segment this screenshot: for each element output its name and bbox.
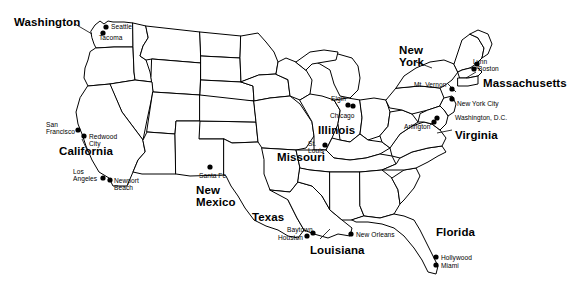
state-label-illinois[interactable]: Illinois xyxy=(318,125,355,137)
state-label-texas[interactable]: Texas xyxy=(252,212,284,224)
city-label-line: Los xyxy=(73,168,97,175)
state-label-louisiana[interactable]: Louisiana xyxy=(310,245,365,257)
state-label-virginia[interactable]: Virginia xyxy=(455,130,498,142)
state-shape-oregon[interactable] xyxy=(84,47,135,86)
city-dot-boston[interactable] xyxy=(471,66,476,71)
city-label-line: Elgin xyxy=(331,95,346,102)
state-shape-alabama[interactable] xyxy=(330,172,364,220)
city-label-line: Arlington xyxy=(404,123,430,130)
city-label-mt-vernon[interactable]: Mt. Vernon xyxy=(414,81,446,88)
city-label-tacoma[interactable]: Tacoma xyxy=(99,34,122,41)
city-label-line: Mt. Vernon xyxy=(414,81,446,88)
city-label-line: Baytown xyxy=(287,226,313,233)
state-label-line: Massachusetts xyxy=(483,78,567,90)
city-label-washington-d-c[interactable]: Washington, D.C. xyxy=(455,114,507,121)
city-label-san-francisco[interactable]: SanFrancisco xyxy=(46,121,75,136)
city-label-line: Louis xyxy=(308,147,324,154)
city-label-arlington[interactable]: Arlington xyxy=(404,123,430,130)
city-dot-hollywood[interactable] xyxy=(433,254,438,259)
city-label-line: St. xyxy=(308,140,324,147)
city-dot-newport-beach[interactable] xyxy=(107,177,112,182)
city-dot-arlington[interactable] xyxy=(431,119,436,124)
city-label-line: Redwood xyxy=(89,133,117,140)
state-label-florida[interactable]: Florida xyxy=(436,227,475,239)
state-label-line: New xyxy=(196,184,236,196)
city-label-santa-fe[interactable]: Santa Fe xyxy=(199,172,226,179)
state-label-line: York xyxy=(399,56,424,68)
city-label-line: Boston xyxy=(478,65,499,72)
city-label-boston[interactable]: Boston xyxy=(478,65,499,72)
city-label-line: Washington, D.C. xyxy=(455,114,507,121)
state-label-line: Virginia xyxy=(455,130,498,142)
state-shape-north-dakota[interactable] xyxy=(200,32,241,58)
city-label-line: Francisco xyxy=(46,128,75,135)
city-label-miami[interactable]: Miami xyxy=(441,262,459,269)
city-label-line: Hollywood xyxy=(441,254,472,261)
city-label-new-orleans[interactable]: New Orleans xyxy=(356,231,395,238)
state-label-line: Illinois xyxy=(318,125,355,137)
city-label-line: Santa Fe xyxy=(199,172,226,179)
city-dot-miami[interactable] xyxy=(433,262,438,267)
city-label-new-york-city[interactable]: New York City xyxy=(457,100,499,107)
state-label-new-mexico[interactable]: NewMexico xyxy=(196,184,236,208)
city-dot-new-york-city[interactable] xyxy=(449,96,454,101)
state-shape-south-dakota[interactable] xyxy=(201,56,241,82)
city-label-line: Angeles xyxy=(73,175,97,182)
city-label-los-angeles[interactable]: LosAngeles xyxy=(73,168,97,183)
city-label-newport-beach[interactable]: NewportBeach xyxy=(114,177,139,192)
city-label-elgin[interactable]: Elgin xyxy=(331,95,346,102)
city-label-line: San xyxy=(46,121,75,128)
state-shape-wyoming[interactable] xyxy=(151,59,201,95)
city-dot-san-francisco[interactable] xyxy=(75,127,80,132)
city-label-line: New Orleans xyxy=(356,231,395,238)
city-dot-seattle[interactable] xyxy=(103,24,108,29)
city-dot-los-angeles[interactable] xyxy=(100,175,105,180)
city-label-chicago[interactable]: Chicago xyxy=(330,112,355,119)
state-label-massachusetts[interactable]: Massachusetts xyxy=(483,78,567,90)
city-label-hollywood[interactable]: Hollywood xyxy=(441,254,472,261)
state-label-new-york[interactable]: NewYork xyxy=(399,44,424,68)
state-label-line: Washington xyxy=(14,17,80,29)
city-label-redwood-city[interactable]: RedwoodCity xyxy=(89,133,117,148)
city-label-line: Miami xyxy=(441,262,459,269)
city-label-baytown[interactable]: Baytown xyxy=(287,226,313,233)
city-label-line: City xyxy=(89,140,117,147)
city-dot-santa-fe[interactable] xyxy=(207,164,212,169)
city-label-line: Houston xyxy=(278,234,303,241)
city-label-line: New York City xyxy=(457,100,499,107)
city-dot-new-orleans[interactable] xyxy=(348,231,353,236)
city-dot-houston[interactable] xyxy=(304,233,309,238)
state-label-washington[interactable]: Washington xyxy=(14,17,80,29)
city-label-seattle[interactable]: Seattle xyxy=(111,23,132,30)
state-shape-connecticut[interactable] xyxy=(458,76,478,86)
city-dot-chicago[interactable] xyxy=(350,103,355,108)
city-dot-mt-vernon[interactable] xyxy=(449,86,454,91)
state-shape-montana[interactable] xyxy=(140,26,201,63)
city-label-line: Chicago xyxy=(330,112,355,119)
state-label-line: Florida xyxy=(436,227,475,239)
city-label-line: Tacoma xyxy=(99,34,122,41)
state-label-line: Louisiana xyxy=(310,245,365,257)
state-label-line: Mexico xyxy=(196,196,236,208)
state-label-line: Texas xyxy=(252,212,284,224)
city-label-st-louis[interactable]: St.Louis xyxy=(308,140,324,155)
city-label-line: Seattle xyxy=(111,23,132,30)
city-dot-redwood-city[interactable] xyxy=(81,133,86,138)
city-label-houston[interactable]: Houston xyxy=(278,234,303,241)
us-map-container: WashingtonCaliforniaNewMexicoTexasLouisi… xyxy=(0,0,581,296)
state-label-line: New xyxy=(399,44,424,56)
city-dot-elgin[interactable] xyxy=(345,102,350,107)
city-label-line: Beach xyxy=(114,184,139,191)
city-label-line: Newport xyxy=(114,177,139,184)
